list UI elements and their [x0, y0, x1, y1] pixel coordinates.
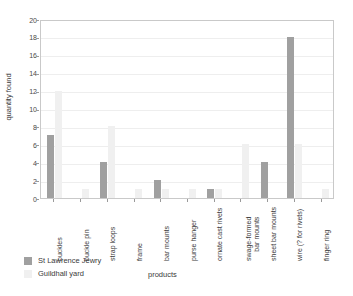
- x-tick-mark: [214, 199, 215, 202]
- y-tick-label: 4: [7, 160, 37, 167]
- bar: [242, 144, 249, 198]
- y-tick-label: 6: [7, 142, 37, 149]
- x-tick-mark: [160, 199, 161, 202]
- x-tick-label-line: finger ring: [323, 230, 331, 261]
- bar: [154, 180, 161, 198]
- x-tick-label-line: purse hanger: [190, 220, 198, 261]
- bar: [47, 135, 54, 198]
- legend-label: St Lawrence Jewry: [38, 256, 101, 265]
- y-tick-mark: [36, 20, 39, 21]
- bar-chart: 02468101214161820 quantity found buckles…: [0, 0, 353, 296]
- y-tick-mark: [36, 163, 39, 164]
- y-axis-title: quantity found: [5, 57, 13, 137]
- bar: [207, 189, 214, 198]
- y-axis: 02468101214161820: [0, 0, 37, 296]
- x-tick-mark: [240, 199, 241, 202]
- y-tick-mark: [36, 145, 39, 146]
- x-tick-mark: [80, 199, 81, 202]
- x-tick-label: swage-formedbar mounts: [245, 217, 261, 261]
- legend-swatch: [24, 257, 32, 265]
- bar: [287, 37, 294, 198]
- y-tick-mark: [36, 110, 39, 111]
- legend-label: Guildhall yard: [38, 269, 84, 278]
- legend-swatch: [24, 270, 32, 278]
- y-tick-mark: [36, 92, 39, 93]
- y-tick-label: 18: [7, 34, 37, 41]
- x-tick-label-line: wire (? for rivets): [296, 209, 304, 261]
- x-tick-mark: [267, 199, 268, 202]
- y-tick-mark: [36, 127, 39, 128]
- x-tick-label-line: sheet bar mounts: [270, 207, 278, 261]
- y-tick-label: 0: [7, 196, 37, 203]
- y-tick-label: 20: [7, 17, 37, 24]
- x-tick-mark: [107, 199, 108, 202]
- x-tick-mark: [321, 199, 322, 202]
- x-tick-label: sheet bar mounts: [270, 207, 278, 261]
- y-tick-mark: [36, 181, 39, 182]
- x-tick-mark: [187, 199, 188, 202]
- y-tick-mark: [36, 74, 39, 75]
- bar: [108, 126, 115, 198]
- y-tick-mark: [36, 56, 39, 57]
- bar: [322, 189, 329, 198]
- x-tick-mark: [53, 199, 54, 202]
- bar: [135, 189, 142, 198]
- y-tick-mark: [36, 199, 39, 200]
- x-tick-label: purse hanger: [190, 220, 198, 261]
- bar: [55, 91, 62, 198]
- x-tick-mark: [294, 199, 295, 202]
- bar: [189, 189, 196, 198]
- y-tick-mark: [36, 38, 39, 39]
- legend-item[interactable]: St Lawrence Jewry: [24, 254, 164, 267]
- bar: [295, 144, 302, 198]
- y-tick-label: 2: [7, 178, 37, 185]
- x-tick-label: ornate cast rivets: [216, 208, 224, 261]
- bar: [100, 162, 107, 198]
- plot-area: [40, 20, 334, 199]
- x-tick-label: wire (? for rivets): [296, 209, 304, 261]
- x-tick-mark: [134, 199, 135, 202]
- chart-legend: St Lawrence JewryGuildhall yard: [24, 254, 164, 280]
- bar: [215, 189, 222, 198]
- bar: [162, 189, 169, 198]
- bar: [82, 189, 89, 198]
- x-tick-label: finger ring: [323, 230, 331, 261]
- bar: [261, 162, 268, 198]
- legend-item[interactable]: Guildhall yard: [24, 267, 164, 280]
- x-tick-label-line: ornate cast rivets: [216, 208, 224, 261]
- x-tick-label-line: bar mounts: [253, 217, 261, 261]
